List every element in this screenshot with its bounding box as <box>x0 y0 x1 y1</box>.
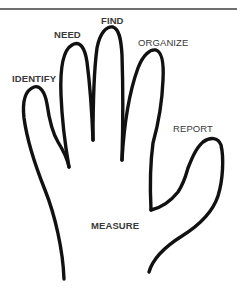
ring-finger-outline <box>122 50 163 210</box>
label-report: REPORT <box>173 124 213 134</box>
index-finger-outline <box>61 44 93 167</box>
hand-outline-icon <box>0 0 237 290</box>
label-need: NEED <box>54 30 81 40</box>
pinky-finger-outline <box>149 139 223 272</box>
label-organize: ORGANIZE <box>138 38 188 48</box>
label-identify: IDENTIFY <box>12 74 56 84</box>
label-find: FIND <box>101 16 124 26</box>
label-measure: MEASURE <box>91 221 139 231</box>
middle-finger-outline <box>93 27 123 160</box>
